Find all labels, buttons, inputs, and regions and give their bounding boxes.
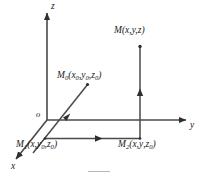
m2-to-m-segment (137, 47, 143, 139)
point-m2-close-paren: ) (153, 139, 156, 149)
x-axis-label: x (11, 162, 15, 172)
m-point-dot (138, 45, 141, 48)
m0-point-dot (86, 83, 89, 86)
point-m0-close-paren: ) (98, 70, 101, 80)
point-m1-close-paren: ) (54, 139, 57, 149)
origin-label: o (36, 110, 40, 119)
point-m0-label: M0(x0,y0,z0) (57, 71, 101, 81)
point-m2-label: M2(x,y,z0) (118, 140, 156, 150)
coordinate-diagram: z y x o M(x,y,z) M0(x0,y0,z0) M1(x,y0,z0… (0, 0, 204, 179)
z-axis-label: z (51, 2, 55, 12)
point-m-text: M(x,y,z) (114, 25, 145, 35)
m1-m2-arrowhead (95, 135, 103, 142)
point-m1-label: M1(x,y0,z0) (16, 140, 57, 150)
y-axis-label: y (190, 121, 194, 131)
point-m2-base: M (118, 139, 126, 149)
point-m0-base: M (57, 70, 65, 80)
m2-m-arrowhead (137, 89, 143, 97)
diagram-canvas (0, 0, 204, 179)
point-m1-base: M (16, 139, 24, 149)
page-artifact-mark (88, 171, 110, 172)
point-m-label: M(x,y,z) (114, 26, 145, 36)
